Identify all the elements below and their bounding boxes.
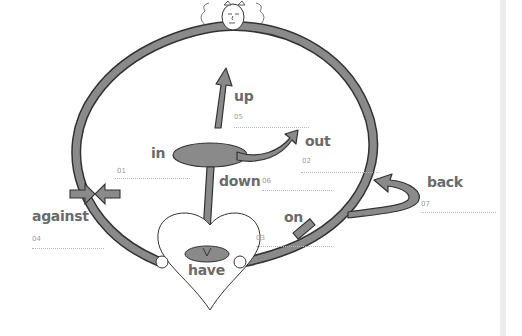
number-06: 06 <box>262 177 271 185</box>
answer-line-03[interactable] <box>256 246 332 247</box>
number-04: 04 <box>32 235 41 243</box>
page-edge-bar <box>500 0 506 336</box>
out-arrow-icon <box>237 130 298 161</box>
word-up: up <box>234 88 253 104</box>
word-back: back <box>427 174 463 190</box>
answer-line-04[interactable] <box>32 248 104 249</box>
number-05: 05 <box>234 113 243 121</box>
number-01: 01 <box>117 167 126 175</box>
answer-line-07[interactable] <box>421 212 496 213</box>
word-have: have <box>188 262 225 278</box>
answer-line-02[interactable] <box>301 172 379 173</box>
word-on: on <box>284 209 303 225</box>
number-07: 07 <box>421 200 430 208</box>
word-down: down <box>219 173 260 189</box>
answer-line-06[interactable] <box>262 190 332 191</box>
number-02: 02 <box>302 157 311 165</box>
word-in: in <box>151 145 165 161</box>
answer-line-01[interactable] <box>115 178 190 179</box>
up-arrow-icon <box>215 68 232 128</box>
word-against: against <box>32 208 89 224</box>
number-03: 03 <box>256 234 265 242</box>
diagram-canvas: in 01 out 02 on 03 against 04 up 05 down… <box>0 0 522 336</box>
diagram-illustration <box>0 0 522 336</box>
answer-line-05[interactable] <box>234 127 309 128</box>
disc-icon <box>173 143 247 167</box>
word-out: out <box>305 133 330 149</box>
